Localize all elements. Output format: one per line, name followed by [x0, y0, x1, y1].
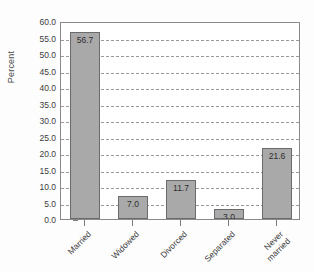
- x-axis-tick-label: Widowed: [97, 229, 141, 272]
- y-axis-tick-label: 15.0: [22, 166, 56, 176]
- x-axis-tick-label-line: Separated: [193, 229, 237, 272]
- y-axis-tick-labels: 0.05.010.015.020.025.030.035.040.045.050…: [18, 22, 56, 220]
- y-axis-tick-label: 45.0: [22, 67, 56, 77]
- y-axis-tick-label: 40.0: [22, 83, 56, 93]
- y-axis-tick-label: 35.0: [22, 100, 56, 110]
- y-axis-tick-label: 20.0: [22, 149, 56, 159]
- x-axis-tick-label: Separated: [193, 229, 237, 272]
- x-axis-tick-label: Married: [49, 229, 93, 272]
- y-axis-tick-label: 5.0: [22, 199, 56, 209]
- x-axis-tick-label-line: Married: [49, 229, 93, 272]
- y-axis-tick-mark: [73, 220, 78, 221]
- y-axis-tick-label: 0.0: [22, 215, 56, 225]
- x-axis-tick-label: Divorced: [145, 229, 189, 272]
- x-axis-tick-mark: [228, 220, 229, 226]
- x-axis-tick-label-line: Divorced: [145, 229, 189, 272]
- bar-value-label: 3.0: [215, 212, 243, 220]
- x-axis-tick-label: Nevermarried: [241, 229, 292, 272]
- bar[interactable]: 3.0: [214, 209, 244, 219]
- y-axis-tick-label: 50.0: [22, 50, 56, 60]
- bar[interactable]: 7.0: [118, 196, 148, 219]
- bar[interactable]: 56.7: [70, 32, 100, 219]
- y-axis-tick-label: 10.0: [22, 182, 56, 192]
- y-axis-tick-label: 30.0: [22, 116, 56, 126]
- bar[interactable]: 11.7: [166, 180, 196, 219]
- x-axis-tick-mark: [132, 220, 133, 226]
- x-axis-tick-mark: [180, 220, 181, 226]
- x-axis-tick-label-line: Widowed: [97, 229, 141, 272]
- y-axis-tick-label: 25.0: [22, 133, 56, 143]
- plot-area: 56.77.011.73.021.6: [60, 22, 300, 220]
- bar[interactable]: 21.6: [262, 148, 292, 219]
- y-axis-tick-label: 60.0: [22, 17, 56, 27]
- x-axis-tick-mark: [84, 220, 85, 226]
- bar-value-label: 7.0: [119, 199, 147, 209]
- bar-value-label: 11.7: [167, 183, 195, 193]
- bar-value-label: 21.6: [263, 151, 291, 161]
- bar-chart: Percent 0.05.010.015.020.025.030.035.040…: [0, 0, 314, 272]
- bar-value-label: 56.7: [71, 35, 99, 45]
- y-axis-tick-label: 55.0: [22, 34, 56, 44]
- x-axis-tick-mark: [276, 220, 277, 226]
